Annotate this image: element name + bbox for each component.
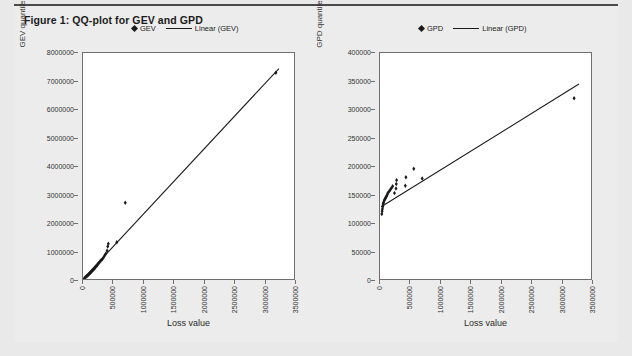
y-tick-mark: [74, 109, 78, 110]
x-tick-label: 1500000: [170, 286, 177, 313]
chart-gev-plot-area: [82, 52, 295, 280]
data-point-marker: [395, 178, 398, 182]
figure-panel: Figure 1: QQ-plot for GEV and GPD GEV qu…: [14, 4, 618, 342]
x-tick-label: 2500000: [528, 286, 535, 313]
chart-gev-legend-line-label: Linear (GEV): [195, 24, 239, 33]
y-tick-label: 4000000: [47, 163, 74, 170]
x-tick-label: 500000: [109, 286, 116, 309]
y-tick-mark: [371, 195, 375, 196]
x-tick-label: 2000000: [200, 286, 207, 313]
x-tick-label: 2500000: [231, 286, 238, 313]
data-point-marker: [573, 96, 576, 100]
y-tick-mark: [74, 52, 78, 53]
x-tick-label: 0: [79, 286, 86, 290]
y-tick-label: 7000000: [47, 77, 74, 84]
chart-gpd-plot-area: [379, 52, 592, 280]
y-tick-label: 200000: [348, 163, 371, 170]
chart-gpd-x-axis-title: Loss value: [379, 318, 592, 328]
x-tick-label: 3500000: [589, 286, 596, 313]
y-tick-label: 3000000: [47, 191, 74, 198]
y-tick-mark: [74, 252, 78, 253]
chart-gev-x-ticks: 0500000100000015000002000000250000030000…: [82, 280, 295, 340]
y-tick-mark: [371, 252, 375, 253]
chart-gev-canvas: [83, 53, 294, 279]
y-tick-mark: [371, 109, 375, 110]
data-point-marker: [412, 167, 415, 171]
x-tick-mark: [265, 280, 266, 284]
y-tick-label: 400000: [348, 49, 371, 56]
chart-gev-legend-marker-label: GEV: [140, 24, 156, 33]
x-tick-mark: [295, 280, 296, 284]
y-tick-mark: [74, 223, 78, 224]
y-tick-mark: [74, 81, 78, 82]
line-swatch-icon: [166, 28, 192, 29]
x-tick-mark: [531, 280, 532, 284]
x-tick-mark: [440, 280, 441, 284]
data-point-marker: [124, 200, 127, 204]
y-tick-label: 1000000: [47, 248, 74, 255]
diamond-marker-icon: [418, 25, 425, 32]
x-tick-label: 500000: [406, 286, 413, 309]
y-tick-mark: [371, 223, 375, 224]
x-tick-mark: [234, 280, 235, 284]
y-tick-mark: [74, 195, 78, 196]
x-tick-label: 3500000: [292, 286, 299, 313]
chart-gev: GEV quantile 010000002000000300000040000…: [20, 42, 310, 336]
y-tick-label: 8000000: [47, 49, 74, 56]
chart-gpd-legend-line-label: Linear (GPD): [482, 24, 526, 33]
x-tick-label: 1000000: [139, 286, 146, 313]
chart-gpd-legend-marker-label: GPD: [427, 24, 443, 33]
chart-gpd-x-ticks: 0500000100000015000002000000250000030000…: [379, 280, 592, 340]
y-tick-mark: [371, 138, 375, 139]
chart-gpd-canvas: [380, 53, 591, 279]
data-point-marker: [404, 175, 407, 179]
y-tick-mark: [74, 280, 78, 281]
x-tick-mark: [562, 280, 563, 284]
x-tick-mark: [592, 280, 593, 284]
x-tick-label: 3000000: [558, 286, 565, 313]
y-tick-mark: [74, 138, 78, 139]
x-tick-mark: [470, 280, 471, 284]
y-tick-mark: [371, 166, 375, 167]
x-tick-label: 1000000: [436, 286, 443, 313]
y-tick-label: 150000: [348, 191, 371, 198]
x-tick-mark: [143, 280, 144, 284]
line-swatch-icon: [453, 28, 479, 29]
chart-gpd-y-ticks: 0500001000001500002000002500003000003500…: [317, 52, 375, 280]
x-tick-mark: [173, 280, 174, 284]
y-tick-label: 6000000: [47, 106, 74, 113]
trend-line: [381, 84, 579, 207]
y-tick-mark: [371, 280, 375, 281]
chart-gev-x-axis-title: Loss value: [82, 318, 295, 328]
y-tick-label: 300000: [348, 106, 371, 113]
y-tick-mark: [371, 52, 375, 53]
y-tick-mark: [371, 81, 375, 82]
y-tick-label: 350000: [348, 77, 371, 84]
x-tick-mark: [204, 280, 205, 284]
chart-gpd: GPD quantile 050000100000150000200000250…: [317, 42, 607, 336]
data-point-marker: [395, 182, 398, 186]
y-tick-label: 2000000: [47, 220, 74, 227]
x-tick-label: 3000000: [261, 286, 268, 313]
x-tick-mark: [112, 280, 113, 284]
x-tick-mark: [82, 280, 83, 284]
data-point-marker: [404, 184, 407, 188]
x-tick-label: 0: [376, 286, 383, 290]
y-tick-label: 100000: [348, 220, 371, 227]
chart-gev-legend: GEV Linear (GEV): [132, 24, 239, 33]
x-tick-label: 1500000: [467, 286, 474, 313]
trend-line: [83, 69, 279, 279]
data-point-marker: [394, 186, 397, 190]
chart-gpd-legend: GPD Linear (GPD): [419, 24, 526, 33]
x-tick-label: 2000000: [497, 286, 504, 313]
y-tick-label: 250000: [348, 134, 371, 141]
y-tick-label: 50000: [352, 248, 371, 255]
chart-gev-y-ticks: 0100000020000003000000400000050000006000…: [20, 52, 78, 280]
data-point-marker: [393, 191, 396, 195]
y-tick-mark: [74, 166, 78, 167]
y-tick-label: 5000000: [47, 134, 74, 141]
x-tick-mark: [501, 280, 502, 284]
x-tick-mark: [379, 280, 380, 284]
x-tick-mark: [409, 280, 410, 284]
diamond-marker-icon: [131, 25, 138, 32]
